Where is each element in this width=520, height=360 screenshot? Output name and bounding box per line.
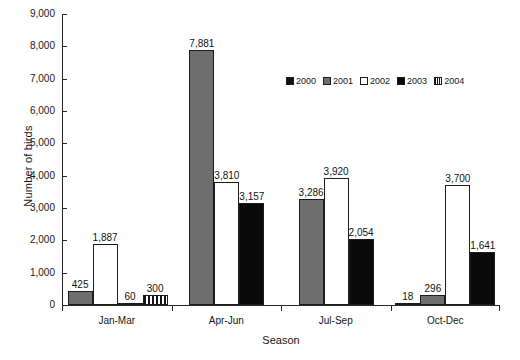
legend-label: 2004	[444, 76, 464, 86]
bar-slot: 3,810	[214, 14, 239, 305]
y-axis-tick-label: 7,000	[6, 73, 62, 84]
bar-group: 3,2863,9202,054	[282, 14, 391, 305]
legend-item-2001[interactable]: 2001	[323, 76, 353, 86]
bar-value-label: 425	[72, 279, 89, 290]
bar-slot: 1,641	[470, 14, 495, 305]
bar-value-label: 2,054	[349, 227, 374, 238]
y-axis-tick: 3,000	[6, 202, 62, 214]
bar-value-label: 18	[402, 291, 413, 302]
bar-2003[interactable]: 60	[118, 303, 143, 305]
bar-2001[interactable]: 3,286	[299, 199, 324, 305]
y-axis-tick: 7,000	[6, 73, 62, 85]
x-axis-tick-mark	[391, 306, 392, 311]
bar-groups: 4251,887603007,8813,8103,1573,2863,9202,…	[63, 14, 500, 305]
bar-slot: 2,054	[349, 14, 374, 305]
bar-value-label: 3,157	[239, 191, 264, 202]
x-axis-tick-label: Oct-Dec	[427, 315, 464, 326]
x-axis-ticks: Jan-MarApr-JunJul-SepOct-Dec	[62, 306, 500, 332]
y-axis-tick-label: 0	[6, 299, 62, 310]
bar-2002[interactable]: 1,887	[93, 244, 118, 305]
y-axis-tick: 8,000	[6, 40, 62, 52]
bar-2002[interactable]: 3,920	[324, 178, 349, 305]
legend-label: 2001	[333, 76, 353, 86]
bar-group: 4251,88760300	[63, 14, 172, 305]
bar-2001[interactable]: 425	[68, 291, 93, 305]
legend-swatch-icon	[286, 77, 294, 85]
legend-label: 2002	[370, 76, 390, 86]
legend-label: 2000	[296, 76, 316, 86]
legend-item-2000[interactable]: 2000	[286, 76, 316, 86]
x-axis-tick: Oct-Dec	[391, 306, 501, 332]
y-axis-tick: 0	[6, 299, 62, 311]
x-axis-tick-mark	[62, 306, 63, 311]
legend-item-2004[interactable]: 2004	[434, 76, 464, 86]
y-axis-tick: 2,000	[6, 234, 62, 246]
bar-2002[interactable]: 3,700	[445, 185, 470, 305]
legend-swatch-icon	[434, 77, 442, 85]
y-axis-tick-label: 1,000	[6, 267, 62, 278]
bar-slot: 300	[143, 14, 168, 305]
bar-group: 7,8813,8103,157	[172, 14, 281, 305]
x-axis-tick-label: Jan-Mar	[98, 315, 135, 326]
bar-slot: 425	[68, 14, 93, 305]
y-axis-tick: 1,000	[6, 267, 62, 279]
legend-swatch-icon	[323, 77, 331, 85]
legend-swatch-icon	[397, 77, 405, 85]
y-axis-tick: 5,000	[6, 137, 62, 149]
bar-value-label: 1,641	[470, 240, 495, 251]
bar-value-label: 7,881	[189, 38, 214, 49]
y-axis-tick: 6,000	[6, 105, 62, 117]
bar-2002[interactable]: 3,810	[214, 182, 239, 305]
bar-value-label: 296	[425, 283, 442, 294]
bar-value-label: 3,920	[324, 166, 349, 177]
y-axis-tick-label: 3,000	[6, 202, 62, 213]
y-axis-tick: 4,000	[6, 170, 62, 182]
bar-slot: 296	[420, 14, 445, 305]
bar-2001[interactable]: 296	[420, 295, 445, 305]
legend-swatch-icon	[360, 77, 368, 85]
x-axis-tick-mark	[281, 306, 282, 311]
bar-slot: 3,920	[324, 14, 349, 305]
bar-slot: 60	[118, 14, 143, 305]
bar-2000[interactable]: 18	[395, 303, 420, 305]
bar-slot: 3,157	[239, 14, 264, 305]
y-axis-tick-label: 6,000	[6, 105, 62, 116]
bar-value-label: 1,887	[93, 232, 118, 243]
x-axis-tick: Apr-Jun	[172, 306, 282, 332]
bar-2003[interactable]: 3,157	[239, 203, 264, 305]
y-axis-tick-label: 5,000	[6, 137, 62, 148]
x-axis-tick-mark	[499, 306, 500, 311]
bar-group: 182963,7001,641	[391, 14, 500, 305]
x-axis-title: Season	[62, 334, 500, 346]
y-axis-tick-label: 2,000	[6, 234, 62, 245]
bar-chart: Number of birds 01,0002,0003,0004,0005,0…	[0, 0, 520, 360]
legend-item-2003[interactable]: 2003	[397, 76, 427, 86]
bar-slot: 3,700	[445, 14, 470, 305]
bar-value-label: 3,286	[299, 187, 324, 198]
x-axis-tick: Jan-Mar	[62, 306, 172, 332]
x-axis-tick: Jul-Sep	[281, 306, 391, 332]
legend-label: 2003	[407, 76, 427, 86]
bar-slot: 18	[395, 14, 420, 305]
y-axis-tick: 9,000	[6, 8, 62, 20]
bar-2001[interactable]: 7,881	[189, 50, 214, 305]
bar-value-label: 3,810	[214, 170, 239, 181]
legend-item-2002[interactable]: 2002	[360, 76, 390, 86]
bar-slot: 7,881	[189, 14, 214, 305]
plot-area: 01,0002,0003,0004,0005,0006,0007,0008,00…	[62, 14, 500, 306]
x-axis-tick-label: Apr-Jun	[209, 315, 244, 326]
y-axis-tick-label: 8,000	[6, 40, 62, 51]
bar-2004[interactable]: 300	[143, 295, 168, 305]
x-axis-tick-label: Jul-Sep	[319, 315, 353, 326]
bar-slot: 3,286	[299, 14, 324, 305]
bar-2003[interactable]: 1,641	[470, 252, 495, 305]
bar-value-label: 60	[125, 291, 136, 302]
y-axis-tick-label: 4,000	[6, 170, 62, 181]
chart-legend: 20002001200220032004	[286, 76, 464, 86]
bar-slot: 1,887	[93, 14, 118, 305]
y-axis-tick-label: 9,000	[6, 8, 62, 19]
bar-2003[interactable]: 2,054	[349, 239, 374, 305]
bar-value-label: 300	[147, 283, 164, 294]
x-axis-tick-mark	[172, 306, 173, 311]
bar-value-label: 3,700	[445, 173, 470, 184]
